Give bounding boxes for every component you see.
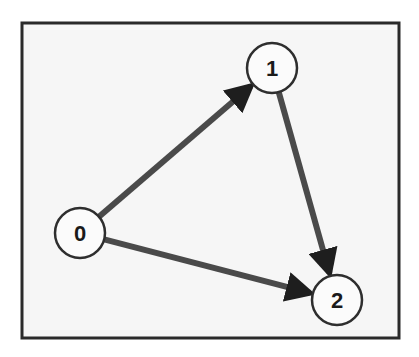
node-1: 1 [247,43,297,93]
node-0: 0 [55,208,105,258]
node-2: 2 [312,275,362,325]
graph-diagram: 012 [0,0,419,357]
node-label: 1 [266,56,278,81]
node-label: 2 [331,288,343,313]
node-label: 0 [74,221,86,246]
